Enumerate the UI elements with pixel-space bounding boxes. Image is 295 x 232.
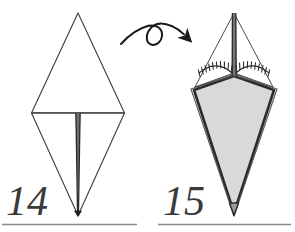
figure-15-filled-kite bbox=[194, 76, 274, 213]
step-number-14: 14 bbox=[6, 180, 48, 222]
figure-14-upper-triangle bbox=[32, 13, 125, 113]
step-number-15: 15 bbox=[163, 180, 205, 222]
turn-over-arrow-loop bbox=[147, 24, 172, 45]
turn-over-arrow-head-stem bbox=[172, 26, 184, 34]
turn-over-arrow-group bbox=[121, 24, 184, 45]
turn-over-arrow-tail bbox=[121, 26, 149, 44]
origami-instruction-figure: 14 15 bbox=[0, 0, 295, 232]
figure-14-bottom-tip bbox=[75, 211, 82, 217]
figure-15-bottom-tip bbox=[230, 203, 239, 216]
